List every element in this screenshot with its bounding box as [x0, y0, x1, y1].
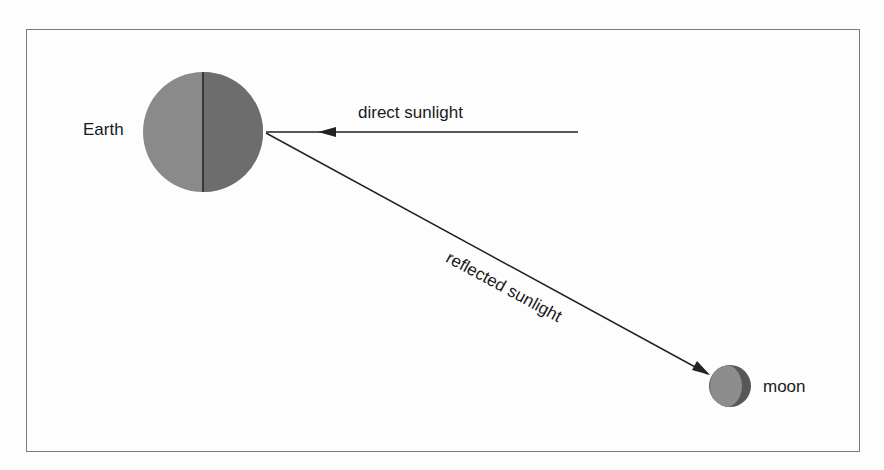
moon-globe	[709, 365, 751, 407]
earth-globe	[143, 72, 263, 192]
moon-label: moon	[763, 377, 806, 397]
direct-sunlight-label: direct sunlight	[358, 103, 463, 123]
direct-sunlight-arrow	[266, 127, 578, 137]
reflected-sunlight-arrow	[266, 133, 710, 375]
earth-label: Earth	[83, 120, 124, 140]
diagram-canvas	[0, 0, 884, 470]
